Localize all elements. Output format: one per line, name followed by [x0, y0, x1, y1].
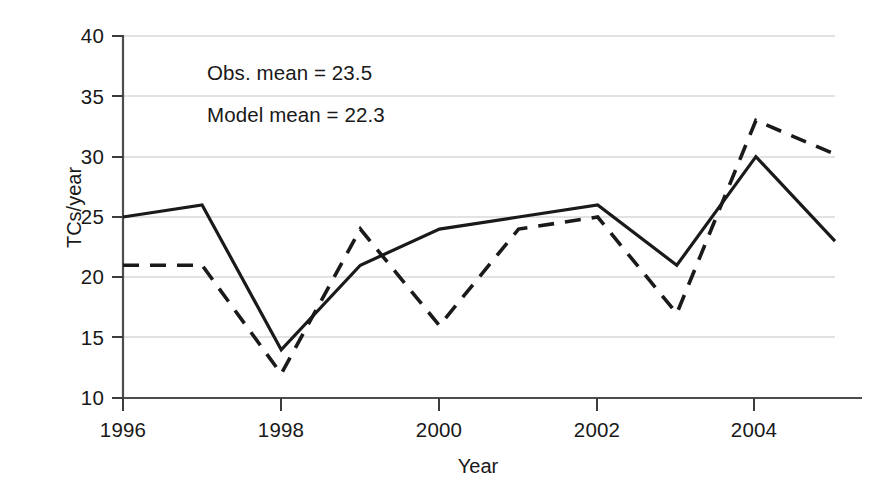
- chart-figure: 40 35 30 25 20 15 10 1996 1998 2000 2002…: [0, 0, 869, 498]
- series-line-model: [123, 120, 835, 373]
- x-tick-label-2002: 2002: [542, 418, 652, 442]
- y-tick-label-35: 35: [34, 85, 104, 109]
- x-tick-label-1998: 1998: [226, 418, 336, 442]
- annotation-model-mean: Model mean = 22.3: [207, 103, 385, 127]
- x-tick-label-2004: 2004: [699, 418, 809, 442]
- y-tick-marks: [112, 36, 123, 398]
- x-tick-marks: [123, 398, 754, 411]
- y-tick-label-15: 15: [34, 326, 104, 350]
- series-line-observed: [123, 157, 835, 350]
- x-tick-label-1996: 1996: [68, 418, 178, 442]
- x-tick-label-2000: 2000: [384, 418, 494, 442]
- y-tick-label-40: 40: [34, 24, 104, 48]
- y-axis-title: TCs/year: [63, 128, 86, 288]
- annotation-obs-mean: Obs. mean = 23.5: [207, 61, 372, 85]
- x-axis-title: Year: [123, 455, 833, 478]
- y-tick-label-10: 10: [34, 386, 104, 410]
